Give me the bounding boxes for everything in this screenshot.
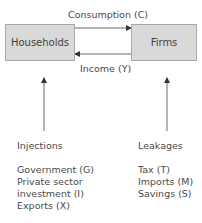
income-label: Income (Y): [80, 63, 131, 74]
leakages-title: Leakages: [138, 140, 193, 152]
leakage-item: Tax (T): [138, 164, 193, 176]
households-label: Households: [11, 37, 69, 48]
households-node: Households: [5, 24, 75, 61]
injection-item: Private sector: [17, 176, 94, 188]
injection-item: investment (I): [17, 188, 94, 200]
injections-list: Injections Government (G) Private sector…: [17, 140, 94, 212]
consumption-label: Consumption (C): [68, 9, 148, 20]
injections-title: Injections: [17, 140, 94, 152]
leakage-item: Savings (S): [138, 188, 193, 200]
injection-item: Exports (X): [17, 200, 94, 212]
injection-item: Government (G): [17, 164, 94, 176]
leakage-item: Imports (M): [138, 176, 193, 188]
leakages-list: Leakages Tax (T) Imports (M) Savings (S): [138, 140, 193, 200]
firms-label: Firms: [151, 37, 178, 48]
firms-node: Firms: [131, 24, 197, 61]
